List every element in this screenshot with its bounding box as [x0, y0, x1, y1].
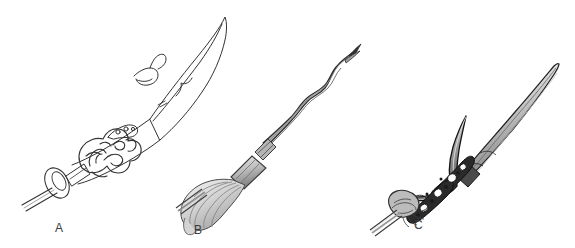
weapons-illustration-svg — [0, 0, 575, 248]
illustration-plate: A B C — [0, 0, 575, 248]
figure-label-b: B — [194, 224, 202, 236]
figure-label-c: C — [414, 219, 423, 231]
figure-label-a: A — [55, 222, 63, 234]
